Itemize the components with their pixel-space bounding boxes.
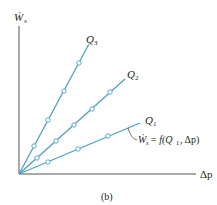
series-q1 [19, 123, 140, 174]
svg-text:s: s [24, 17, 27, 25]
svg-text:s: s [146, 139, 149, 146]
label-q1: Q 1 [145, 114, 157, 128]
svg-text:2: 2 [135, 74, 139, 82]
series-q3 [19, 44, 89, 174]
label-q3: Q 3 [86, 33, 98, 47]
svg-text:= f(Q: = f(Q [150, 134, 173, 146]
svg-text:, Δp): , Δp) [180, 134, 199, 146]
figure-caption: (b) [101, 191, 113, 203]
svg-text:Q: Q [127, 68, 135, 80]
svg-text:1: 1 [176, 139, 179, 146]
function-annotation: Ẇ s = f(Q 1 , Δp) [138, 134, 199, 146]
performance-diagram: Ẇ s Δp Q 3 Q 2 Q 1 Ẇ s = f(Q 1 , Δp) (b) [0, 0, 217, 205]
svg-text:Q: Q [86, 33, 94, 45]
svg-text:3: 3 [94, 39, 98, 47]
svg-text:Q: Q [145, 114, 153, 126]
series-q2 [19, 79, 125, 174]
x-axis-label: Δp [200, 168, 213, 180]
svg-text:Ẇ: Ẇ [14, 11, 24, 23]
svg-text:1: 1 [153, 120, 157, 128]
label-q2: Q 2 [127, 68, 139, 82]
annotation-leader [128, 128, 137, 140]
y-axis-label: Ẇ s [14, 11, 27, 25]
